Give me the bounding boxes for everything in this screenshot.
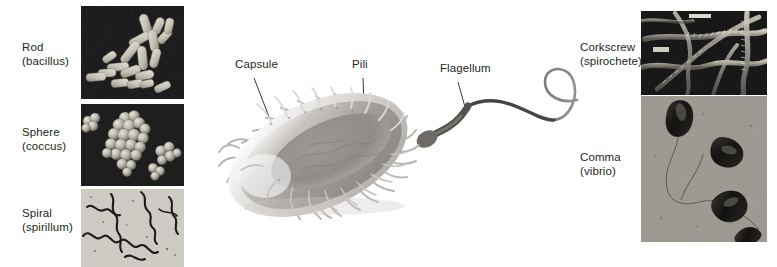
- shape-label-comma-line1: Comma: [580, 150, 621, 164]
- shape-label-corkscrew-line1: Corkscrew: [580, 40, 642, 54]
- shape-label-corkscrew-line2: (spirochete): [580, 54, 642, 68]
- shape-label-rod-line1: Rod: [22, 40, 69, 54]
- shape-label-spiral-line2: (spirillum): [22, 220, 73, 234]
- shape-label-sphere-line2: (coccus): [22, 139, 66, 153]
- shape-label-spiral-line1: Spiral: [22, 206, 73, 220]
- shape-label-comma-line2: (vibrio): [580, 164, 621, 178]
- shape-label-sphere: Sphere (coccus): [22, 125, 66, 153]
- shape-label-sphere-line1: Sphere: [22, 125, 66, 139]
- micrograph-panel-corkscrew: [641, 11, 767, 95]
- shape-label-spiral: Spiral (spirillum): [22, 206, 73, 234]
- shape-label-rod-line2: (bacillus): [22, 54, 69, 68]
- micrograph-panel-comma: [641, 96, 767, 242]
- prokaryotic-bacterium-illustration: [205, 0, 585, 267]
- micrograph-panel-sphere: [81, 104, 184, 186]
- bacteria-shapes-figure: Rod (bacillus) Sphere (coccus) Spiral (s…: [0, 0, 777, 267]
- shape-label-corkscrew: Corkscrew (spirochete): [580, 40, 642, 68]
- micrograph-panel-rod: [81, 6, 184, 99]
- shape-label-rod: Rod (bacillus): [22, 40, 69, 68]
- micrograph-panel-spiral: [81, 189, 184, 267]
- shape-label-comma: Comma (vibrio): [580, 150, 621, 178]
